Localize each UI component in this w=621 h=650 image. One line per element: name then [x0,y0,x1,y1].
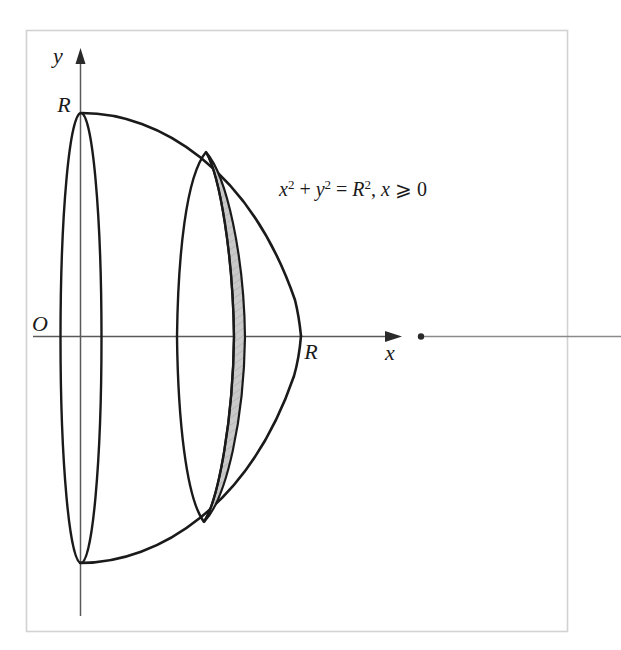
hemisphere-diagram: y R O R x x2 + y2 = R2, x ⩾ 0 [0,0,621,650]
x-axis-label: x [384,340,395,365]
equation-label: x2 + y2 = R2, x ⩾ 0 [278,177,427,201]
pointer-dot [418,333,424,339]
y-axis-label: y [51,43,63,68]
x-tick-label-R: R [303,339,318,364]
origin-label-O: O [32,311,48,336]
figure-border [27,31,568,632]
figure-root: y R O R x x2 + y2 = R2, x ⩾ 0 [0,0,621,650]
y-tick-label-R: R [56,92,71,117]
